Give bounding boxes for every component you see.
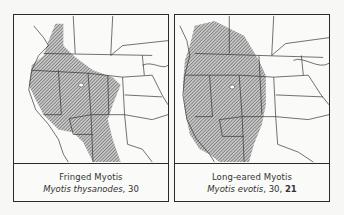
- scientific-line: Myotis evotis, 30, 21: [207, 183, 296, 195]
- lake-icon: [230, 85, 235, 89]
- reference-numbers: , 30: [123, 184, 139, 194]
- bold-reference-number: 21: [285, 184, 297, 194]
- range-map: [14, 15, 168, 163]
- scientific-line: Myotis thysanodes, 30: [43, 183, 139, 195]
- divider: [14, 163, 168, 164]
- range-map-panel-long-eared-myotis: Long-eared Myotis Myotis evotis, 30, 21: [174, 14, 330, 202]
- range-shading: [183, 21, 266, 162]
- lake-icon: [79, 83, 84, 87]
- common-name: Long-eared Myotis: [212, 171, 292, 183]
- reference-numbers: , 30,: [263, 184, 285, 194]
- range-map: [175, 15, 329, 163]
- caption: Fringed Myotis Myotis thysanodes, 30: [14, 165, 168, 201]
- common-name: Fringed Myotis: [59, 171, 122, 183]
- scientific-name: Myotis evotis: [207, 184, 263, 194]
- north-america-map: [14, 15, 168, 163]
- scientific-name: Myotis thysanodes: [43, 184, 122, 194]
- range-map-panel-fringed-myotis: Fringed Myotis Myotis thysanodes, 30: [13, 14, 169, 202]
- divider: [175, 163, 329, 164]
- caption: Long-eared Myotis Myotis evotis, 30, 21: [175, 165, 329, 201]
- north-america-map: [175, 15, 329, 163]
